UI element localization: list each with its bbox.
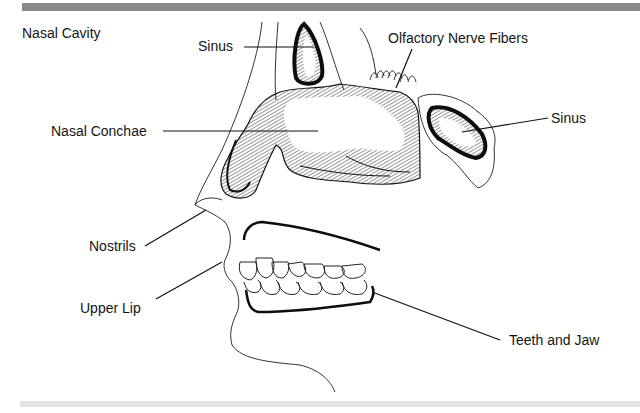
leader-olfactory bbox=[396, 49, 412, 88]
label-upper-lip: Upper Lip bbox=[80, 300, 141, 316]
face-profile-outline bbox=[195, 22, 376, 392]
nasal-conchae bbox=[221, 84, 420, 198]
label-teeth-and-jaw: Teeth and Jaw bbox=[509, 332, 599, 348]
right-sinus bbox=[418, 94, 495, 188]
label-nostrils: Nostrils bbox=[89, 238, 136, 254]
diagram-title: Nasal Cavity bbox=[22, 25, 101, 41]
footer-rule bbox=[20, 401, 640, 407]
label-sinus-right: Sinus bbox=[551, 110, 586, 126]
label-olfactory-nerve-fibers: Olfactory Nerve Fibers bbox=[388, 30, 528, 46]
leader-upper-lip bbox=[156, 262, 222, 299]
teeth-and-jaw bbox=[239, 222, 380, 312]
olfactory-nerve-fibers bbox=[370, 71, 416, 82]
label-sinus-upper: Sinus bbox=[198, 38, 233, 54]
label-nasal-conchae: Nasal Conchae bbox=[51, 123, 147, 139]
upper-sinus bbox=[294, 24, 322, 84]
nasal-cavity-illustration bbox=[0, 0, 640, 413]
leader-nostrils bbox=[145, 210, 206, 246]
leader-teeth-jaw bbox=[372, 292, 500, 340]
